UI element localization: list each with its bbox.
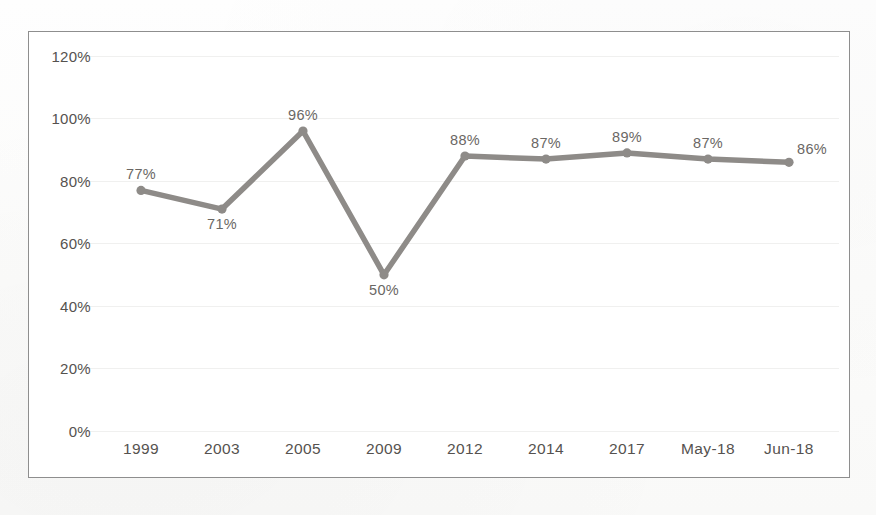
point-label-jun-18: 86%: [777, 141, 847, 157]
xtick-label-2014: 2014: [501, 440, 591, 458]
point-label-2009: 50%: [349, 282, 419, 298]
point-label-may-18: 87%: [673, 135, 743, 151]
xtick-label-2003: 2003: [177, 440, 267, 458]
point-label-2003: 71%: [187, 216, 257, 232]
plot-area: 120% 100% 80% 60% 40% 20% 0% 1999 2003 2…: [29, 32, 851, 479]
chart-frame: 120% 100% 80% 60% 40% 20% 0% 1999 2003 2…: [28, 31, 850, 478]
point-label-1999: 77%: [106, 166, 176, 182]
point-label-2017: 89%: [592, 129, 662, 145]
point-label-2005: 96%: [268, 107, 338, 123]
xtick-label-2012: 2012: [420, 440, 510, 458]
point-label-2014: 87%: [511, 135, 581, 151]
point-label-2012: 88%: [430, 132, 500, 148]
xtick-label-2017: 2017: [582, 440, 672, 458]
xtick-label-2009: 2009: [339, 440, 429, 458]
xtick-label-2005: 2005: [258, 440, 348, 458]
xtick-label-may-18: May-18: [663, 440, 753, 458]
xtick-label-jun-18: Jun-18: [744, 440, 834, 458]
xtick-label-1999: 1999: [96, 440, 186, 458]
line-series: [29, 32, 851, 479]
